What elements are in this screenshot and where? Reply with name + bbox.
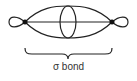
sigma-bond-label: σ bond <box>0 61 137 72</box>
left-nucleus <box>23 20 28 25</box>
brace <box>25 48 112 59</box>
right-nucleus <box>110 20 115 25</box>
